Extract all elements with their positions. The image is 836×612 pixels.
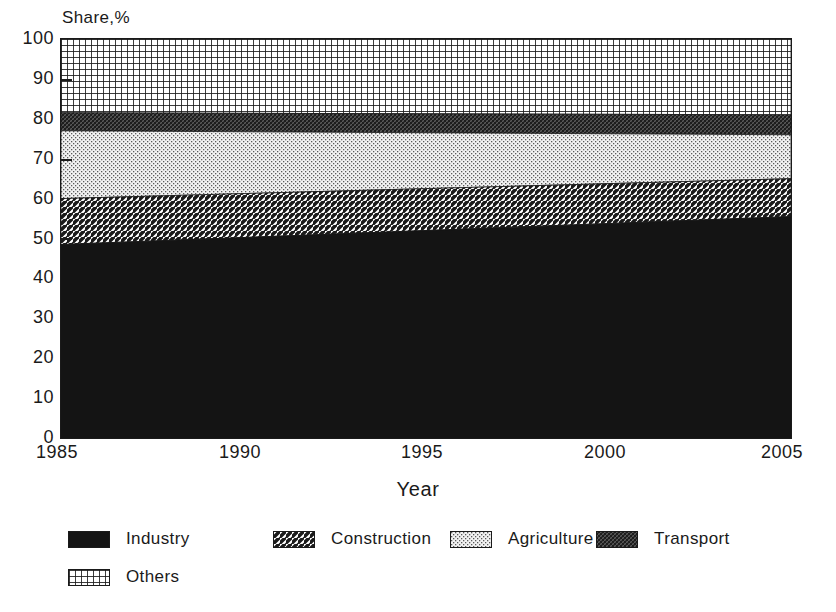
y-tick-label-70: 70 xyxy=(2,149,54,167)
legend-item-construction: Construction xyxy=(273,524,431,554)
y-tick-label-50: 50 xyxy=(2,229,54,247)
x-tick-label-1990: 1990 xyxy=(219,441,261,463)
y-tick-label-30: 30 xyxy=(2,308,54,326)
area-band-industry xyxy=(61,217,791,438)
x-axis-title: Year xyxy=(0,478,836,501)
legend-label-construction: Construction xyxy=(331,529,431,549)
legend-item-transport: Transport xyxy=(596,524,730,554)
stacked-bands xyxy=(61,39,791,438)
area-band-others xyxy=(61,39,791,115)
y-axis-tick-labels: 100 90 80 70 60 50 40 30 20 10 0 xyxy=(0,38,54,437)
x-tick-label-1985: 1985 xyxy=(36,441,78,463)
legend-swatch-others-icon xyxy=(68,569,110,586)
legend-item-others: Others xyxy=(68,562,179,592)
legend-label-transport: Transport xyxy=(654,529,730,549)
legend-label-others: Others xyxy=(126,567,179,587)
y-tick-label-20: 20 xyxy=(2,348,54,366)
plot-area xyxy=(60,38,792,439)
stacked-area-chart-figure: Share,% 100 90 80 70 60 50 40 30 20 10 0 xyxy=(0,0,836,612)
legend-label-industry: Industry xyxy=(126,529,190,549)
y-tick-label-100: 100 xyxy=(2,29,54,47)
x-tick-label-1995: 1995 xyxy=(401,441,443,463)
x-tick-label-2000: 2000 xyxy=(584,441,626,463)
y-tick-label-90: 90 xyxy=(2,69,54,87)
y-tick-label-60: 60 xyxy=(2,189,54,207)
y-tick-mark-70 xyxy=(61,159,72,161)
y-tick-mark-90 xyxy=(61,79,72,81)
legend-swatch-agriculture-icon xyxy=(450,531,492,548)
legend-swatch-industry-icon xyxy=(68,531,110,548)
y-tick-mark-50 xyxy=(61,238,72,240)
legend-label-agriculture: Agriculture xyxy=(508,529,594,549)
y-tick-label-10: 10 xyxy=(2,388,54,406)
chart-legend: Industry Construction Agriculture xyxy=(68,524,788,594)
legend-swatch-transport-icon xyxy=(596,531,638,548)
legend-item-industry: Industry xyxy=(68,524,190,554)
legend-swatch-construction-icon xyxy=(273,531,315,548)
y-axis-title: Share,% xyxy=(62,8,130,28)
legend-item-agriculture: Agriculture xyxy=(450,524,594,554)
y-tick-label-80: 80 xyxy=(2,109,54,127)
y-tick-label-40: 40 xyxy=(2,268,54,286)
x-axis-tick-labels: 1985 1990 1995 2000 2005 xyxy=(0,441,836,467)
x-tick-label-2005: 2005 xyxy=(761,441,803,463)
